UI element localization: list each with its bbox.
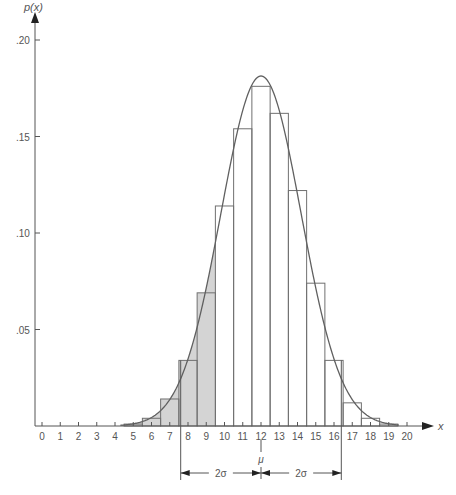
shaded-bar bbox=[197, 293, 215, 426]
x-tick-label: 4 bbox=[112, 431, 118, 442]
arrow-left-icon bbox=[261, 470, 270, 476]
x-tick-label: 8 bbox=[185, 431, 191, 442]
x-tick-label: 5 bbox=[130, 431, 136, 442]
histogram-bar bbox=[270, 113, 288, 426]
x-ticks: 01234567891011121314151617181920 bbox=[39, 422, 413, 442]
histogram-bar bbox=[307, 283, 325, 426]
y-axis-arrow-icon bbox=[31, 12, 39, 23]
x-tick-label: 2 bbox=[76, 431, 82, 442]
x-tick-label: 3 bbox=[94, 431, 100, 442]
arrow-right-icon bbox=[332, 470, 341, 476]
arrow-left-icon bbox=[181, 470, 190, 476]
shaded-region bbox=[120, 243, 215, 427]
x-tick-label: 6 bbox=[149, 431, 155, 442]
x-tick-label: 17 bbox=[347, 431, 359, 442]
axes bbox=[31, 12, 434, 430]
histogram-bar bbox=[234, 129, 252, 426]
x-tick-label: 15 bbox=[310, 431, 322, 442]
normal-curve bbox=[120, 76, 398, 425]
x-tick-label: 20 bbox=[401, 431, 413, 442]
y-ticks: .05.10.15.20 bbox=[16, 35, 40, 336]
histogram-bars bbox=[124, 86, 398, 426]
histogram-bar bbox=[215, 206, 233, 426]
x-tick-label: 11 bbox=[238, 431, 249, 442]
arrow-right-icon bbox=[252, 470, 261, 476]
x-tick-label: 13 bbox=[274, 431, 286, 442]
right-2sigma-label: 2σ bbox=[295, 468, 308, 479]
x-tick-label: 10 bbox=[219, 431, 231, 442]
x-tick-label: 19 bbox=[383, 431, 395, 442]
x-tick-label: 16 bbox=[328, 431, 340, 442]
x-tick-label: 9 bbox=[203, 431, 209, 442]
shaded-bar bbox=[179, 360, 197, 426]
probability-histogram-chart: p(x) x .05.10.15.20 01234567891011121314… bbox=[0, 0, 456, 495]
histogram-bar bbox=[252, 86, 270, 426]
left-2sigma-label: 2σ bbox=[215, 468, 228, 479]
y-tick-label: .05 bbox=[16, 325, 30, 336]
y-axis-label: p(x) bbox=[23, 1, 43, 13]
x-tick-label: 18 bbox=[365, 431, 377, 442]
x-tick-label: 1 bbox=[57, 431, 63, 442]
x-axis-arrow-icon bbox=[422, 422, 434, 430]
histogram-bar bbox=[325, 360, 343, 426]
shaded-bar bbox=[161, 399, 179, 426]
x-tick-label: 7 bbox=[167, 431, 173, 442]
x-axis-label: x bbox=[437, 420, 444, 432]
y-tick-label: .20 bbox=[16, 35, 30, 46]
y-tick-label: .15 bbox=[16, 132, 30, 143]
mu-label: μ bbox=[257, 454, 264, 465]
y-tick-label: .10 bbox=[16, 228, 30, 239]
x-tick-label: 0 bbox=[39, 431, 45, 442]
x-tick-label: 14 bbox=[292, 431, 304, 442]
